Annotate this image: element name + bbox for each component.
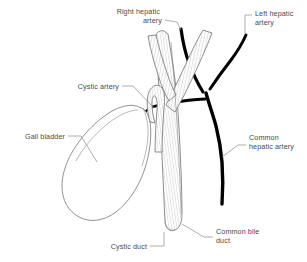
gall-bladder-outline (62, 105, 151, 220)
label-left-hepatic-artery: Left hepatic artery (255, 9, 295, 27)
anatomy-diagram: Right hepatic artery Left hepatic artery… (0, 0, 307, 262)
label-cystic-duct: Cystic duct (111, 242, 147, 251)
leader-left-hepatic-artery (245, 15, 252, 34)
leader-cystic-duct (150, 232, 164, 246)
leader-common-hepatic-artery (222, 145, 246, 157)
gall-bladder (62, 105, 151, 220)
biliary-duct-system (147, 30, 212, 231)
label-common-bile-duct: Common bile duct (216, 227, 262, 245)
common-hepatic-artery (206, 93, 223, 204)
label-common-hepatic-artery: Common hepatic artery (249, 133, 294, 151)
leader-common-bile-duct (182, 224, 213, 237)
label-cystic-artery: Cystic artery (78, 82, 120, 91)
left-hepatic-artery (210, 35, 246, 89)
label-gall-bladder: Gall bladder (25, 132, 65, 141)
label-right-hepatic-artery: Right hepatic artery (117, 7, 163, 25)
leader-right-hepatic-artery (165, 20, 181, 30)
